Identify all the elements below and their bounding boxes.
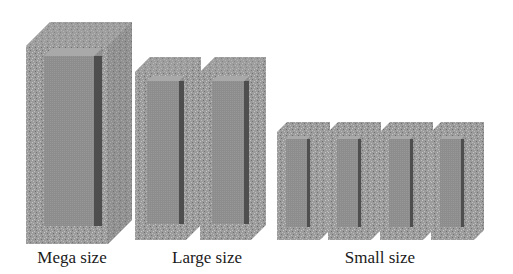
mega-size-label: Mega size xyxy=(37,248,106,268)
large-box-1 xyxy=(135,57,203,241)
large-box-2 xyxy=(200,57,268,241)
large-size-label: Large size xyxy=(172,248,242,268)
small-box-1 xyxy=(277,122,331,242)
mega-box xyxy=(26,22,134,246)
small-box-2 xyxy=(328,122,382,242)
small-size-label: Small size xyxy=(345,248,415,268)
small-box-3 xyxy=(380,122,434,242)
small-box-4 xyxy=(431,122,485,242)
